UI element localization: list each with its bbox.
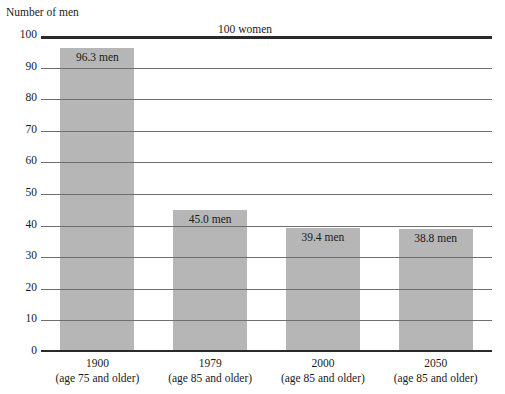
category-year: 2000 [267,356,380,371]
bar-value-label: 38.8 men [399,232,473,244]
bar-value-label: 96.3 men [60,51,134,63]
y-axis-tick-label: 90 [3,60,37,72]
bar-value-label: 39.4 men [286,231,360,243]
category-age-range: (age 85 and older) [267,371,380,386]
gridline [41,194,492,195]
gridline [41,320,492,321]
gridline [41,289,492,290]
bar: 45.0 men [173,210,247,352]
bar-chart: Number of men 100 women 0102030405060708… [0,0,505,394]
gridline [41,68,492,69]
y-axis-tick-label: 30 [3,249,37,261]
bar-value-label: 45.0 men [173,213,247,225]
gridline [41,226,492,227]
y-axis-tick-label: 50 [3,186,37,198]
x-axis-category: 2000(age 85 and older) [267,356,380,386]
bar: 38.8 men [399,229,473,352]
y-axis-tick-label: 20 [3,281,37,293]
gridline [41,162,492,163]
y-axis-tick-label: 70 [3,123,37,135]
gridline [41,257,492,258]
y-axis-title: Number of men [6,6,79,18]
x-axis-category-labels: 1900(age 75 and older)1979(age 85 and ol… [41,356,492,392]
category-age-range: (age 75 and older) [41,371,154,386]
gridline [41,350,492,353]
category-year: 1979 [154,356,267,371]
baseline-annotation: 100 women [218,23,272,35]
y-axis-tick-label: 100 [3,28,37,40]
y-axis-tick-label: 40 [3,218,37,230]
gridline [41,131,492,132]
y-axis-tick-label: 0 [3,344,37,356]
y-axis-tick-label: 60 [3,154,37,166]
category-age-range: (age 85 and older) [154,371,267,386]
gridline [41,99,492,100]
gridline [41,36,492,39]
x-axis-category: 1900(age 75 and older) [41,356,154,386]
y-axis-tick-labels: 0102030405060708090100 [0,36,37,352]
category-year: 1900 [41,356,154,371]
plot-area: 96.3 men45.0 men39.4 men38.8 men [41,36,492,352]
clipped-chart-title [0,0,505,5]
x-axis-category: 2050(age 85 and older) [379,356,492,386]
y-axis-tick-label: 80 [3,91,37,103]
x-axis-category: 1979(age 85 and older) [154,356,267,386]
bar: 96.3 men [60,48,134,352]
y-axis-tick-label: 10 [3,312,37,324]
category-age-range: (age 85 and older) [379,371,492,386]
category-year: 2050 [379,356,492,371]
